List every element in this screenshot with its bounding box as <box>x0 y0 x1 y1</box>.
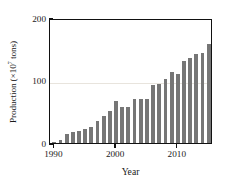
bar <box>151 85 155 143</box>
bar <box>59 140 63 143</box>
y-axis-title-exponent: 7 <box>6 61 13 64</box>
x-axis-tick-mark <box>53 144 54 148</box>
y-axis-tick-labels: 0100200 <box>20 0 46 186</box>
bar <box>126 107 130 143</box>
bar <box>157 84 161 143</box>
bar <box>145 99 149 143</box>
x-axis-tick-label: 1990 <box>44 149 62 159</box>
bar <box>139 99 143 143</box>
x-axis-tick-mark <box>114 144 115 148</box>
y-axis-title-suffix: tons) <box>8 41 18 61</box>
bar-chart-figure: Production (×107 tons) 0100200 199020002… <box>0 0 229 186</box>
bar <box>188 58 192 143</box>
x-axis-tick-mark <box>176 144 177 148</box>
plot-area <box>49 19 212 144</box>
bar <box>71 132 75 143</box>
bar-series <box>50 20 211 143</box>
bar <box>164 79 168 143</box>
x-axis-tick-label: 2010 <box>168 149 186 159</box>
bar <box>102 116 106 143</box>
bar <box>207 44 211 143</box>
bar <box>201 53 205 143</box>
bar <box>194 54 198 143</box>
y-axis-tick-label: 200 <box>20 14 46 24</box>
bar <box>83 129 87 143</box>
x-axis-tick-label: 2000 <box>106 149 124 159</box>
y-axis-title: Production (×107 tons) <box>6 19 20 145</box>
bar <box>170 72 174 143</box>
bar <box>114 101 118 144</box>
bar <box>120 107 124 143</box>
bar <box>176 74 180 143</box>
y-axis-tick-label: 100 <box>20 76 46 86</box>
bar <box>52 142 56 143</box>
x-axis-title: Year <box>49 166 212 177</box>
bar <box>133 99 137 143</box>
bar <box>182 61 186 143</box>
bar <box>108 111 112 143</box>
bar <box>77 131 81 143</box>
bar <box>89 127 93 143</box>
y-axis-tick-label: 0 <box>20 139 46 149</box>
y-axis-title-prefix: Production (×10 <box>8 64 18 123</box>
bar <box>96 121 100 143</box>
bar <box>65 134 69 143</box>
